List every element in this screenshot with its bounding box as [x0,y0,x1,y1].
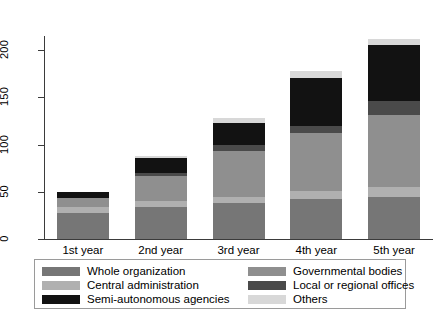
x-axis-tick-label: 3rd year [200,243,278,257]
chart-legend: Whole organizationCentral administration… [34,259,406,309]
x-axis-tick-label: 4th year [277,243,355,257]
legend-item-label: Whole organization [87,265,185,278]
x-axis-line [44,239,433,240]
legend-item: Central administration [42,278,230,292]
bar-segment [57,198,109,206]
bar-3 [213,36,265,239]
bar-segment [57,207,109,213]
bar-segment [290,126,342,134]
bar-segment [290,191,342,199]
legend-swatch-icon [248,267,286,276]
y-axis-tick-label: 150 [0,77,10,117]
bars-container [44,36,433,239]
legend-item-label: Local or regional offices [293,279,414,292]
bar-segment [213,151,265,196]
legend-swatch-icon [248,281,286,290]
legend-swatch-icon [42,267,80,276]
bar-segment [213,123,265,145]
bar-segment [213,203,265,239]
plot-area: 050100150200 1st year2nd year3rd year4th… [0,0,439,252]
bar-segment [290,78,342,126]
legend-item-label: Semi-autonomous agencies [87,293,230,306]
bar-segment [135,158,187,173]
bar-5 [368,36,420,239]
bar-segment [57,192,109,199]
y-axis-tick-label: 0 [0,219,10,259]
bar-segment [368,197,420,239]
bar-segment [290,199,342,239]
legend-item: Others [248,292,414,306]
bar-segment [135,173,187,176]
legend-item: Whole organization [42,264,230,278]
legend-item-label: Central administration [87,279,199,292]
bar-segment [135,176,187,201]
bar-segment [135,156,187,158]
x-axis-tick-label: 2nd year [122,243,200,257]
bar-segment [135,201,187,207]
legend-item-label: Others [293,293,328,306]
y-axis-tick-label: 100 [0,124,10,164]
legend-swatch-icon [248,295,286,304]
legend-swatch-icon [42,281,80,290]
stacked-bar-chart-figure: 050100150200 1st year2nd year3rd year4th… [0,0,439,329]
x-axis-tick-label: 5th year [355,243,433,257]
bar-segment [290,133,342,191]
legend-column-left: Whole organizationCentral administration… [42,264,230,306]
y-axis-tick-label: 200 [0,30,10,70]
bar-segment [368,101,420,115]
bar-segment [368,39,420,46]
bar-1 [57,36,109,239]
bar-segment [213,197,265,204]
bar-2 [135,36,187,239]
bar-segment [57,213,109,239]
bar-segment [368,45,420,101]
x-axis-tick-label: 1st year [44,243,122,257]
bar-segment [368,187,420,196]
legend-column-right: Governmental bodiesLocal or regional off… [248,264,414,306]
y-axis-tick-mark [38,239,44,240]
bar-segment [135,207,187,239]
bar-4 [290,36,342,239]
bar-segment [368,115,420,187]
legend-item-label: Governmental bodies [293,265,402,278]
legend-swatch-icon [42,295,80,304]
bar-segment [213,145,265,152]
legend-item: Semi-autonomous agencies [42,292,230,306]
bar-segment [213,118,265,123]
legend-item: Local or regional offices [248,278,414,292]
bar-segment [290,71,342,78]
y-axis-tick-label: 50 [0,171,10,211]
legend-item: Governmental bodies [248,264,414,278]
